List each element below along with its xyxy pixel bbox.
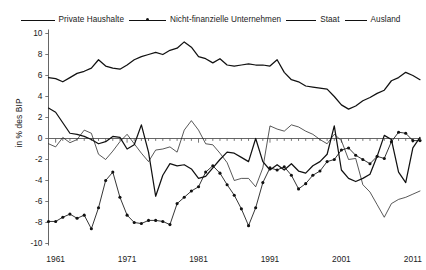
series-marker <box>76 217 79 220</box>
series-marker <box>340 149 343 152</box>
series-marker <box>218 172 221 175</box>
series-marker <box>47 220 50 223</box>
series-marker <box>240 207 243 210</box>
series-private-haushalte <box>49 42 421 109</box>
series-marker <box>411 139 414 142</box>
series-marker <box>368 162 371 165</box>
series-marker <box>233 194 236 197</box>
series-marker <box>276 168 279 171</box>
series-marker <box>176 202 179 205</box>
series-marker <box>183 196 186 199</box>
series-marker <box>304 182 307 185</box>
series-marker <box>168 223 171 226</box>
series-marker <box>83 214 86 217</box>
series-marker <box>311 174 314 177</box>
data-series-group <box>47 42 422 230</box>
series-marker <box>104 179 107 182</box>
series-marker <box>133 221 136 224</box>
series-marker <box>68 213 71 216</box>
series-marker <box>97 206 100 209</box>
plot-area <box>0 0 426 270</box>
series-marker <box>283 165 286 168</box>
series-marker <box>126 214 129 217</box>
series-marker <box>190 189 193 192</box>
series-marker <box>361 158 364 161</box>
series-marker <box>397 131 400 134</box>
series-marker <box>347 146 350 149</box>
series-marker <box>318 170 321 173</box>
series-marker <box>161 220 164 223</box>
series-marker <box>383 157 386 160</box>
series-marker <box>154 219 157 222</box>
series-marker <box>326 160 329 163</box>
series-marker <box>111 171 114 174</box>
series-marker <box>197 185 200 188</box>
series-line <box>49 108 421 196</box>
series-line <box>49 121 421 218</box>
series-staat <box>49 108 421 196</box>
series-marker <box>297 187 300 190</box>
series-marker <box>247 224 250 227</box>
series-marker <box>54 220 57 223</box>
series-marker <box>290 174 293 177</box>
series-marker <box>118 196 121 199</box>
chart-figure: Private Haushalte Nicht-finanzielle Unte… <box>0 0 426 270</box>
series-ausland <box>49 121 421 218</box>
series-marker <box>90 227 93 230</box>
series-marker <box>204 171 207 174</box>
series-marker <box>261 181 264 184</box>
series-marker <box>147 219 150 222</box>
series-marker <box>140 222 143 225</box>
series-marker <box>354 154 357 157</box>
series-marker <box>333 158 336 161</box>
series-line <box>49 42 421 109</box>
series-marker <box>254 206 257 209</box>
series-marker <box>404 132 407 135</box>
series-marker <box>226 183 229 186</box>
series-marker <box>61 216 64 219</box>
